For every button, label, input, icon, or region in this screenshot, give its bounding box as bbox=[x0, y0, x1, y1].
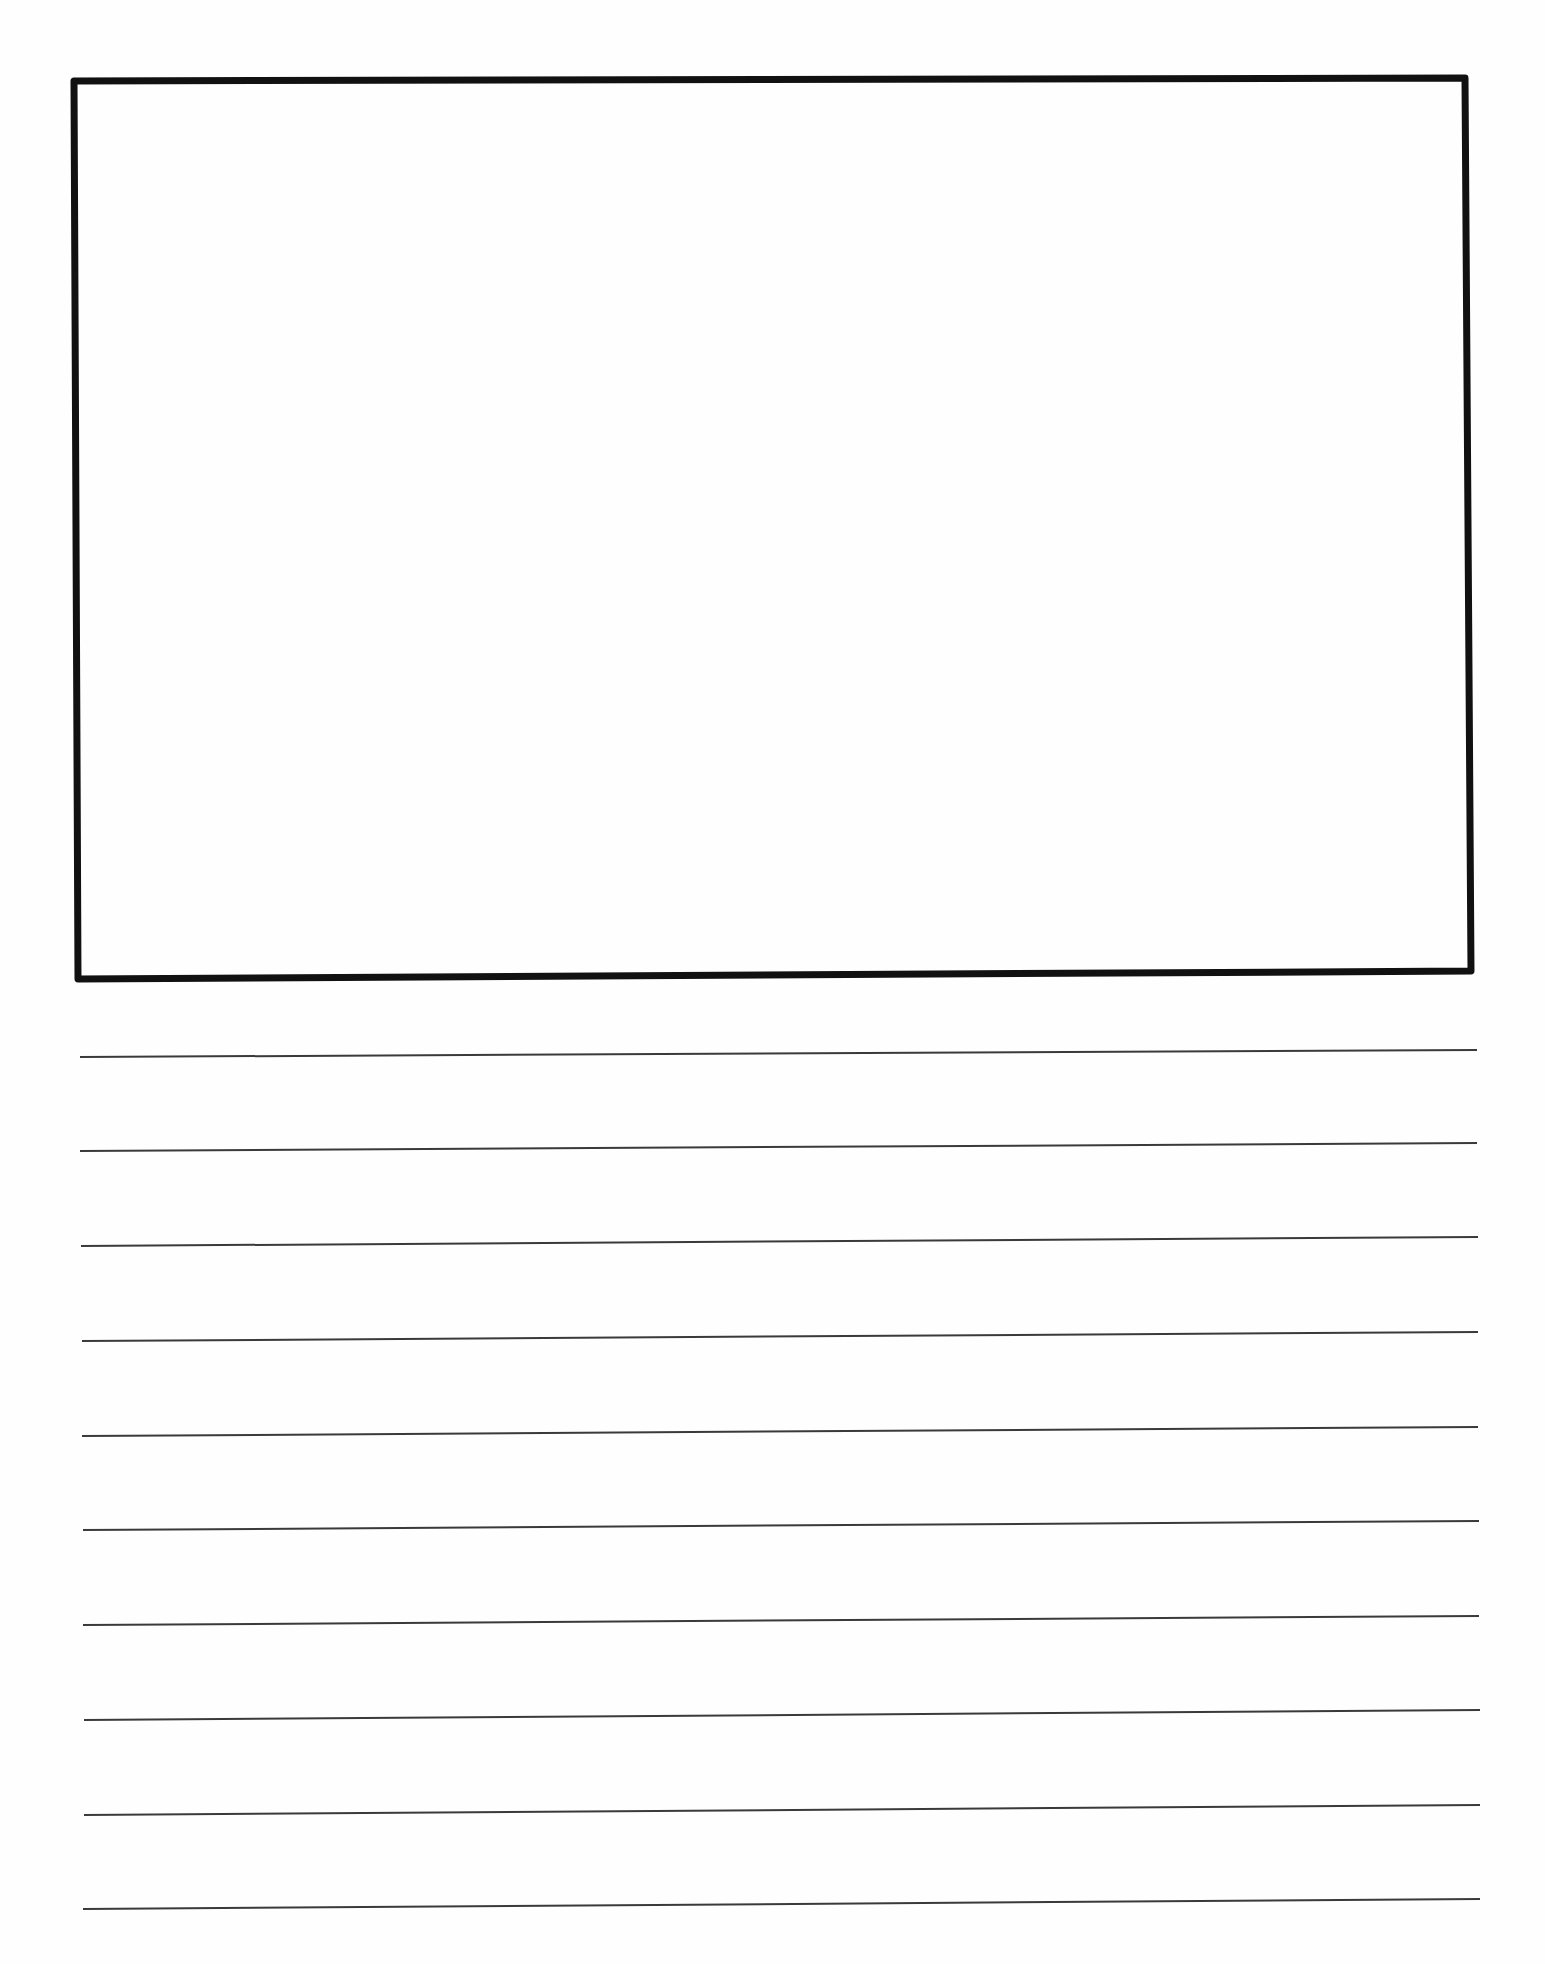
writing-paper-page bbox=[0, 0, 1545, 1964]
writing-line-4-area[interactable] bbox=[82, 1270, 1478, 1330]
writing-line bbox=[84, 1710, 1480, 1720]
writing-line bbox=[80, 1050, 1477, 1057]
writing-line bbox=[81, 1237, 1478, 1246]
writing-line-3-area[interactable] bbox=[81, 1175, 1478, 1235]
writing-line-10-area[interactable] bbox=[83, 1837, 1480, 1897]
writing-line-9-area[interactable] bbox=[84, 1743, 1480, 1803]
writing-line-1-area[interactable] bbox=[80, 988, 1477, 1048]
writing-line-5-area[interactable] bbox=[82, 1365, 1478, 1425]
writing-line bbox=[83, 1616, 1479, 1625]
writing-line bbox=[82, 1427, 1478, 1436]
writing-line-6-area[interactable] bbox=[83, 1459, 1479, 1519]
writing-line bbox=[80, 1143, 1477, 1151]
drawing-area[interactable] bbox=[82, 88, 1466, 972]
writing-line bbox=[83, 1899, 1480, 1909]
writing-line-8-area[interactable] bbox=[84, 1648, 1480, 1708]
writing-line-2-area[interactable] bbox=[80, 1081, 1477, 1141]
writing-line-7-area[interactable] bbox=[83, 1554, 1479, 1614]
writing-line bbox=[84, 1805, 1480, 1815]
writing-line bbox=[82, 1332, 1478, 1341]
writing-line bbox=[83, 1521, 1479, 1530]
